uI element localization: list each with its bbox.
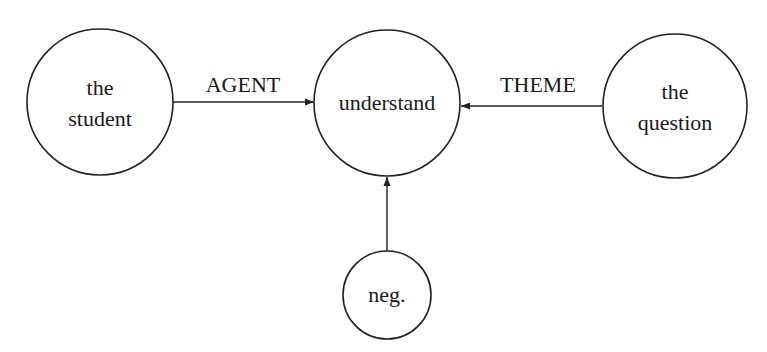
node-label: neg.: [368, 282, 405, 307]
node-label: understand: [339, 90, 436, 115]
node-the-question: the question: [603, 34, 747, 178]
node-circle: [27, 29, 173, 175]
theme-label: THEME: [500, 72, 576, 97]
node-negation: neg.: [343, 251, 431, 339]
node-understand: understand: [314, 30, 460, 176]
node-label-line2: question: [638, 110, 713, 135]
node-circle: [603, 34, 747, 178]
edge-agent: AGENT: [173, 72, 314, 102]
node-the-student: the student: [27, 29, 173, 175]
agent-label: AGENT: [206, 72, 281, 97]
semantic-graph-diagram: AGENT THEME the student understand the q…: [0, 0, 767, 352]
edge-theme: THEME: [461, 72, 602, 106]
node-label-line1: the: [87, 75, 114, 100]
node-label-line1: the: [662, 79, 689, 104]
node-label-line2: student: [68, 106, 132, 131]
